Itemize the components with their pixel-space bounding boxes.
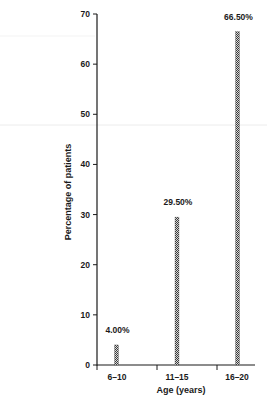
y-tick-label: 40 xyxy=(81,159,91,169)
x-category-label: 11–15 xyxy=(165,372,188,382)
y-tick-label: 0 xyxy=(85,360,90,370)
bar xyxy=(236,32,240,365)
y-axis: 010203040506070 xyxy=(81,9,97,370)
y-tick-label: 10 xyxy=(81,310,91,320)
bars: 4.00%6–1029.50%11–1566.50%16–20 xyxy=(105,12,253,382)
bar xyxy=(115,345,119,365)
bar-value-label: 66.50% xyxy=(224,12,253,22)
x-axis-title: Age (years) xyxy=(156,385,205,395)
bar-chart: 010203040506070 4.00%6–1029.50%11–1566.5… xyxy=(0,0,267,404)
bar-value-label: 4.00% xyxy=(105,325,130,335)
y-tick-label: 20 xyxy=(81,260,91,270)
x-category-label: 6–10 xyxy=(108,372,127,382)
bar-value-label: 29.50% xyxy=(164,197,193,207)
bar xyxy=(175,217,179,365)
y-tick-label: 70 xyxy=(81,9,91,19)
y-tick-label: 30 xyxy=(81,210,91,220)
y-tick-label: 50 xyxy=(81,109,91,119)
chart-canvas: 010203040506070 4.00%6–1029.50%11–1566.5… xyxy=(0,0,267,404)
y-axis-title: Percentage of patients xyxy=(63,144,73,241)
x-category-label: 16–20 xyxy=(225,372,249,382)
x-axis xyxy=(97,365,255,370)
y-tick-label: 60 xyxy=(81,59,91,69)
